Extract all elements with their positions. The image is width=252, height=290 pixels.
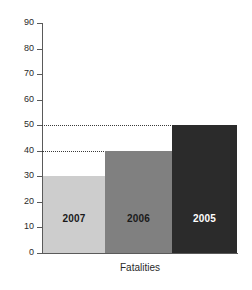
- y-tick-label: 20: [4, 197, 34, 206]
- x-axis-line: [42, 253, 238, 254]
- y-tick-mark: [37, 100, 42, 101]
- y-tick-mark: [37, 23, 42, 24]
- y-tick-label: 90: [4, 18, 34, 27]
- y-tick-label: 10: [4, 222, 34, 231]
- bar: 2005: [172, 125, 237, 253]
- bar: 2006: [105, 151, 172, 253]
- y-tick-label: 80: [4, 44, 34, 53]
- y-tick-label: 50: [4, 120, 34, 129]
- y-tick-mark: [37, 176, 42, 177]
- y-tick-mark: [37, 74, 42, 75]
- y-tick-label: 40: [4, 146, 34, 155]
- plot-area: 200720062005: [43, 23, 237, 253]
- bar-value-label: 2006: [105, 213, 172, 224]
- x-axis-title: Fatalities: [42, 262, 238, 273]
- y-tick-label: 60: [4, 95, 34, 104]
- y-tick-label: 30: [4, 171, 34, 180]
- bar-chart: 0102030405060708090 200720062005 Fatalit…: [0, 0, 252, 290]
- y-tick-mark: [37, 49, 42, 50]
- y-tick-mark: [37, 227, 42, 228]
- y-tick-mark: [37, 202, 42, 203]
- y-tick-label: 70: [4, 69, 34, 78]
- y-tick-mark: [37, 253, 42, 254]
- bar-value-label: 2005: [172, 213, 237, 224]
- y-tick-label: 0: [4, 248, 34, 257]
- bar-value-label: 2007: [43, 213, 105, 224]
- bar: 2007: [43, 176, 105, 253]
